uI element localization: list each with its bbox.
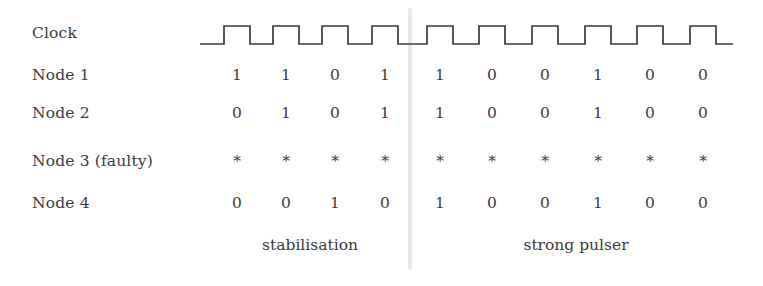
signal-value-cell: 0	[686, 196, 720, 212]
row-label-node-4: Node 4	[32, 196, 90, 212]
signal-value-cell: *	[220, 154, 254, 170]
signal-value-cell: 0	[528, 68, 562, 84]
signal-value-cell: *	[686, 154, 720, 170]
signal-value-cell: 0	[633, 196, 667, 212]
signal-value-cell: 0	[528, 196, 562, 212]
signal-value-cell: 0	[318, 106, 352, 122]
signal-value-cell: *	[633, 154, 667, 170]
row-label-node-1: Node 1	[32, 68, 90, 84]
timing-diagram-figure: ClockNode 11101100100Node 20101100100Nod…	[0, 0, 763, 286]
signal-value-cell: 1	[269, 68, 303, 84]
signal-value-cell: *	[423, 154, 457, 170]
row-label-clock: Clock	[32, 26, 77, 42]
phase-caption-strong-pulser: strong pulser	[523, 238, 628, 254]
signal-value-cell: 1	[220, 68, 254, 84]
clock-waveform	[0, 20, 763, 54]
signal-value-cell: 1	[423, 196, 457, 212]
signal-value-cell: 1	[368, 106, 402, 122]
signal-value-cell: 1	[423, 68, 457, 84]
signal-value-cell: 0	[528, 106, 562, 122]
signal-value-cell: 1	[368, 68, 402, 84]
signal-value-cell: *	[475, 154, 509, 170]
row-label-node-2: Node 2	[32, 106, 90, 122]
signal-value-cell: 1	[423, 106, 457, 122]
signal-value-cell: 1	[581, 68, 615, 84]
signal-value-cell: 0	[633, 106, 667, 122]
signal-value-cell: 0	[269, 196, 303, 212]
signal-value-cell: 0	[475, 196, 509, 212]
signal-value-cell: 0	[633, 68, 667, 84]
signal-value-cell: *	[318, 154, 352, 170]
signal-value-cell: *	[269, 154, 303, 170]
signal-value-cell: 0	[475, 68, 509, 84]
signal-value-cell: *	[368, 154, 402, 170]
signal-value-cell: 0	[686, 106, 720, 122]
phase-caption-stabilisation: stabilisation	[262, 238, 358, 254]
signal-value-cell: 0	[475, 106, 509, 122]
signal-value-cell: *	[528, 154, 562, 170]
row-label-node-3-faulty: Node 3 (faulty)	[32, 154, 153, 170]
signal-value-cell: 0	[368, 196, 402, 212]
signal-value-cell: 0	[220, 196, 254, 212]
signal-value-cell: 0	[686, 68, 720, 84]
signal-value-cell: 1	[318, 196, 352, 212]
signal-value-cell: 1	[581, 196, 615, 212]
signal-value-cell: 0	[220, 106, 254, 122]
signal-value-cell: 1	[269, 106, 303, 122]
signal-value-cell: *	[581, 154, 615, 170]
signal-value-cell: 0	[318, 68, 352, 84]
signal-value-cell: 1	[581, 106, 615, 122]
